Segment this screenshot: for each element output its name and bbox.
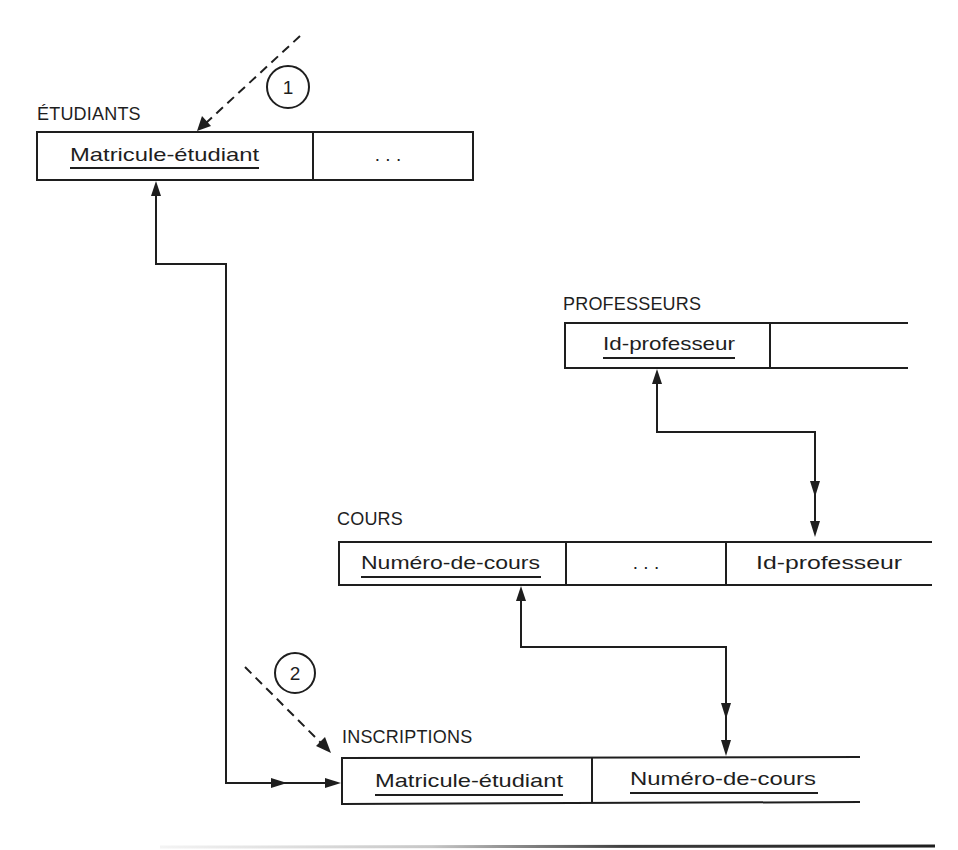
table-title-professeurs: PROFESSEURS [563,294,701,314]
table-inscriptions: INSCRIPTIONS Matricule-étudiant Numéro-d… [342,727,860,804]
marker-number: 2 [290,663,301,684]
field-ellipsis: . . . [375,144,401,165]
field-id-professeur-pk: Id-professeur [603,333,736,358]
table-title-cours: COURS [337,509,403,529]
relational-schema-diagram: ÉTUDIANTS Matricule-étudiant . . . 1 PRO… [0,0,958,850]
connector-line [156,194,330,783]
table-etudiants: ÉTUDIANTS Matricule-étudiant . . . [37,104,473,180]
arrowhead-down-icon [810,481,820,497]
connector-line [657,382,815,530]
connector-cours-professeurs [652,369,820,537]
field-matricule-etudiant-pk: Matricule-étudiant [375,770,564,795]
arrowhead-right-icon [325,778,341,788]
arrowhead-down-icon [810,521,820,537]
table-cours: COURS Numéro-de-cours . . . Id-professeu… [337,509,932,585]
marker-1: 1 [197,36,309,131]
table-professeurs: PROFESSEURS Id-professeur [563,294,908,368]
field-numero-de-cours-pk: Numéro-de-cours [361,552,541,577]
page-rule [160,846,935,847]
field-label: Matricule-étudiant [70,144,260,165]
field-numero-de-cours-pk: Numéro-de-cours [630,768,818,793]
arrowhead-up-icon [151,181,161,196]
field-label: Matricule-étudiant [375,770,564,791]
arrowhead-down-icon [721,703,731,719]
field-label: Numéro-de-cours [630,768,816,789]
field-label: Id-professeur [603,333,736,354]
connector-inscriptions-etudiants [151,181,341,788]
table-title-etudiants: ÉTUDIANTS [37,104,141,124]
field-matricule-etudiant-pk: Matricule-étudiant [70,144,260,168]
field-ellipsis: . . . [633,552,659,573]
arrowhead-icon [316,737,331,753]
field-id-professeur-fk: Id-professeur [756,552,903,573]
connector-line [521,599,726,750]
arrowhead-up-icon [652,369,662,384]
arrowhead-icon [197,116,211,131]
arrowhead-up-icon [516,586,526,601]
dashed-arrow-2 [245,667,322,744]
arrowhead-down-icon [721,740,731,756]
field-label: Numéro-de-cours [361,552,540,573]
arrowhead-right-icon [271,778,287,788]
marker-2: 2 [245,653,331,753]
table-title-inscriptions: INSCRIPTIONS [342,727,472,747]
marker-number: 1 [283,77,294,98]
connector-inscriptions-cours [516,586,731,756]
